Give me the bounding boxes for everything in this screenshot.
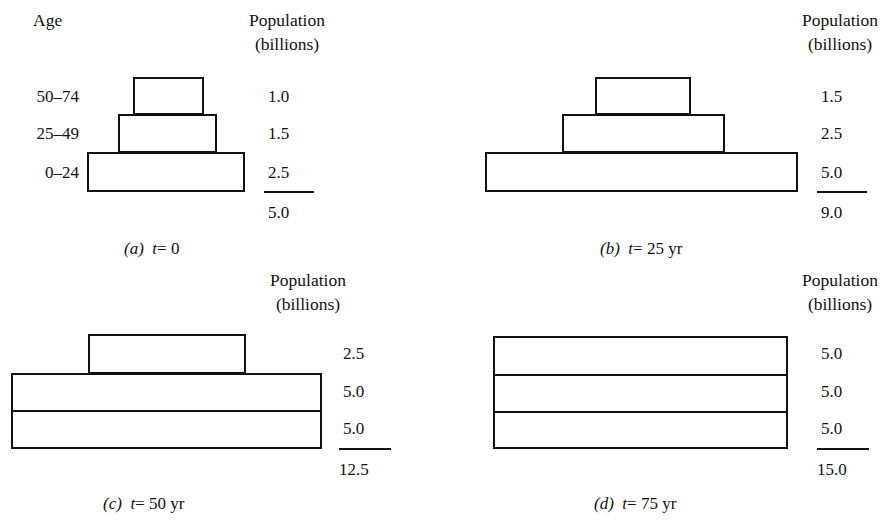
age-group-label-0-24: 0–24	[45, 164, 79, 181]
value-a-0-24: 2.5	[268, 164, 289, 181]
bar-a-0-24	[87, 152, 245, 192]
bar-a-50-74	[133, 77, 204, 115]
total-b: 9.0	[821, 204, 842, 221]
age-group-label-50-74: 50–74	[37, 88, 80, 105]
total-a: 5.0	[268, 204, 289, 221]
value-b-0-24: 5.0	[821, 164, 842, 181]
caption-b: (b) t= 25 yr	[600, 240, 682, 257]
bar-b-0-24	[485, 152, 798, 192]
caption-a: (a) t= 0	[124, 240, 179, 257]
caption-b-rest: = 25 yr	[633, 239, 682, 258]
population-header-a: Population	[249, 12, 325, 30]
value-c-0-24: 5.0	[343, 420, 364, 437]
population-units-a: (billions)	[255, 36, 319, 54]
bar-a-25-49	[118, 114, 217, 153]
value-d-0-24: 5.0	[821, 420, 842, 437]
value-b-50-74: 1.5	[821, 88, 842, 105]
value-d-50-74: 5.0	[821, 345, 842, 362]
value-a-50-74: 1.0	[268, 88, 289, 105]
figure-root: Age Population (billions) 50–74 25–49 0–…	[0, 0, 891, 527]
total-c: 12.5	[339, 461, 369, 478]
caption-c-rest: = 50 yr	[135, 494, 184, 513]
bar-c-stack-divider	[11, 410, 322, 412]
total-d: 15.0	[817, 461, 847, 478]
population-units-c: (billions)	[276, 296, 340, 314]
total-rule-c	[339, 448, 391, 450]
total-rule-b	[817, 191, 867, 193]
bar-c-50-74	[88, 334, 246, 374]
caption-b-letter: (b)	[600, 239, 620, 258]
population-header-d: Population	[802, 272, 878, 290]
total-rule-a	[264, 191, 314, 193]
caption-d-rest: = 75 yr	[627, 494, 676, 513]
population-units-d: (billions)	[808, 296, 872, 314]
age-group-label-25-49: 25–49	[37, 125, 80, 142]
caption-a-letter: (a)	[124, 239, 144, 258]
value-c-25-49: 5.0	[343, 383, 364, 400]
caption-d: (d) t= 75 yr	[594, 495, 676, 512]
bar-d-full-stack	[493, 336, 788, 449]
population-units-b: (billions)	[808, 36, 872, 54]
bar-c-lower-stack	[11, 373, 322, 449]
bar-d-divider-upper	[493, 374, 788, 376]
age-column-header: Age	[33, 12, 62, 30]
caption-a-rest: = 0	[157, 239, 179, 258]
caption-c-letter: (c)	[103, 494, 122, 513]
value-c-50-74: 2.5	[343, 345, 364, 362]
value-d-25-49: 5.0	[821, 383, 842, 400]
caption-c: (c) t= 50 yr	[103, 495, 184, 512]
value-b-25-49: 2.5	[821, 125, 842, 142]
population-header-b: Population	[802, 12, 878, 30]
population-header-c: Population	[270, 272, 346, 290]
bar-b-25-49	[562, 114, 725, 153]
bar-b-50-74	[595, 77, 691, 115]
value-a-25-49: 1.5	[268, 125, 289, 142]
caption-d-letter: (d)	[594, 494, 614, 513]
bar-d-divider-lower	[493, 411, 788, 413]
total-rule-d	[817, 448, 869, 450]
